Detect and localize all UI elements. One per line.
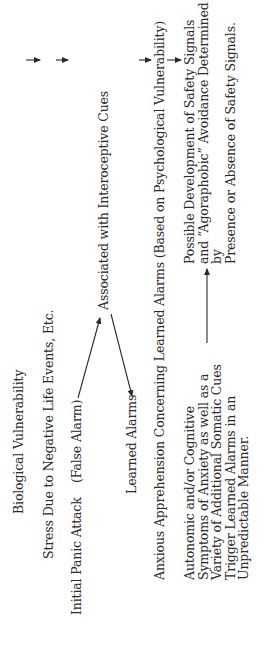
panic-model-diagram: Biological Vulnerability Stress Due to N…	[0, 0, 265, 660]
connector-arrows	[0, 0, 265, 660]
arrow-associated-to-learned	[111, 314, 132, 396]
arrow-false-alarm-to-associated	[78, 318, 100, 398]
